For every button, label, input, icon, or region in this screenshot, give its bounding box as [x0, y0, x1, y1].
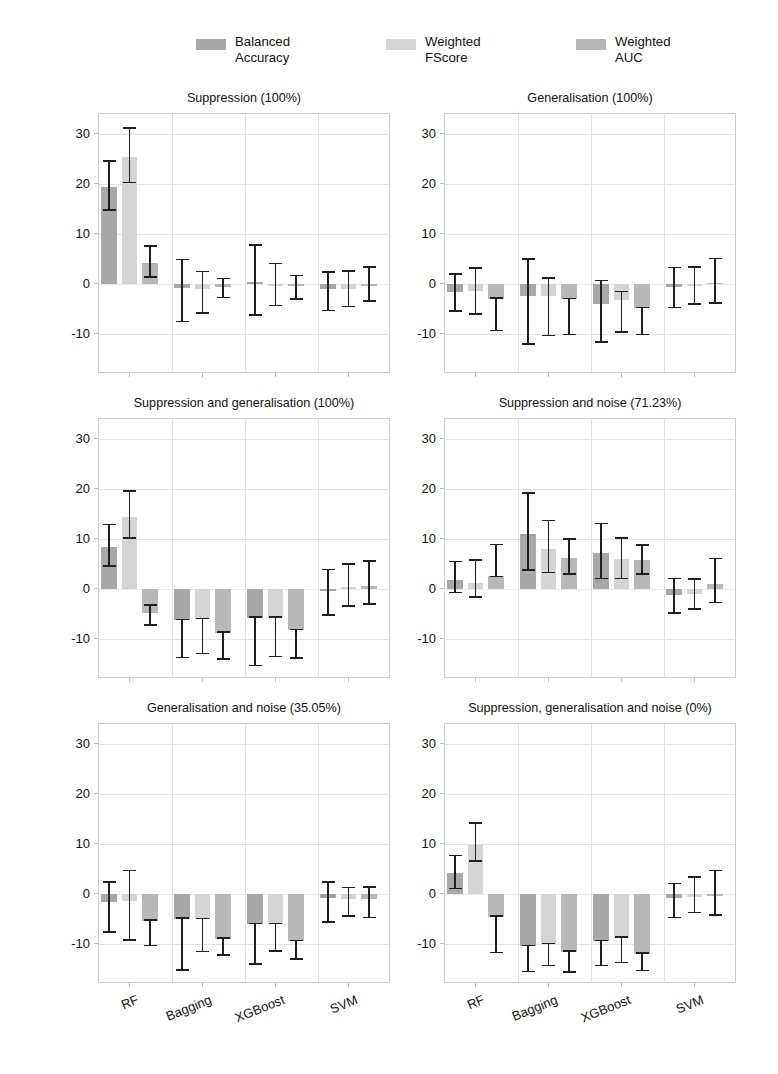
gridline-horizontal — [445, 794, 735, 795]
error-bar-cap — [668, 883, 681, 885]
error-bar — [548, 944, 550, 966]
y-axis-tick-label: -10 — [390, 936, 436, 951]
x-axis-tick-mark — [475, 983, 476, 987]
error-bar — [621, 937, 623, 963]
figure-root: Balanced AccuracyWeighted FScoreWeighted… — [0, 0, 778, 1074]
error-bar-cap — [615, 936, 628, 938]
error-bar-cap — [668, 917, 681, 919]
gridline-horizontal — [445, 744, 735, 745]
bar — [614, 894, 630, 938]
error-bar-cap — [449, 855, 462, 857]
error-bar — [475, 823, 477, 861]
y-axis-tick-mark — [440, 943, 444, 944]
error-bar-cap — [490, 915, 503, 917]
gridline-horizontal — [445, 944, 735, 945]
bar — [488, 894, 504, 917]
error-bar-cap — [688, 912, 701, 914]
error-bar — [527, 946, 529, 972]
subplot-title: Suppression, generalisation and noise (0… — [444, 701, 736, 715]
plot-area — [444, 723, 736, 983]
error-bar — [495, 916, 497, 953]
error-bar-cap — [595, 965, 608, 967]
error-bar-cap — [615, 962, 628, 964]
error-bar — [641, 953, 643, 971]
x-axis-tick-mark — [694, 983, 695, 987]
error-bar-cap — [449, 888, 462, 890]
y-axis-tick-label: 20 — [390, 786, 436, 801]
bar — [520, 894, 536, 946]
error-bar — [454, 856, 456, 889]
bar — [561, 894, 577, 952]
error-bar — [714, 871, 716, 916]
y-axis-tick-mark — [440, 793, 444, 794]
error-bar-cap — [636, 970, 649, 972]
x-axis-tick-mark — [621, 983, 622, 987]
y-axis-tick-mark — [440, 843, 444, 844]
y-axis-tick-mark — [440, 743, 444, 744]
y-axis-tick-label: 0 — [390, 886, 436, 901]
error-bar-cap — [636, 952, 649, 954]
y-axis-tick-label: 10 — [390, 836, 436, 851]
x-axis-tick-mark — [548, 983, 549, 987]
bar — [634, 894, 650, 954]
gridline-horizontal — [445, 844, 735, 845]
subplot: Suppression, generalisation and noise (0… — [0, 0, 778, 1074]
error-bar-cap — [563, 971, 576, 973]
error-bar-cap — [490, 952, 503, 954]
y-axis-tick-label: 30 — [390, 736, 436, 751]
error-bar-cap — [522, 971, 535, 973]
error-bar — [673, 884, 675, 918]
bar — [593, 894, 609, 941]
error-bar-cap — [563, 950, 576, 952]
error-bar-cap — [595, 940, 608, 942]
y-axis-tick-mark — [440, 893, 444, 894]
error-bar — [694, 877, 696, 913]
error-bar-cap — [469, 822, 482, 824]
gridline-vertical — [591, 724, 592, 982]
error-bar-cap — [522, 945, 535, 947]
error-bar — [568, 951, 570, 972]
error-bar-cap — [688, 876, 701, 878]
error-bar-cap — [542, 943, 555, 945]
error-bar-cap — [542, 965, 555, 967]
bar — [541, 894, 557, 944]
error-bar-cap — [709, 914, 722, 916]
gridline-vertical — [664, 724, 665, 982]
error-bar-cap — [709, 870, 722, 872]
error-bar-cap — [469, 860, 482, 862]
gridline-vertical — [518, 724, 519, 982]
error-bar — [600, 941, 602, 966]
